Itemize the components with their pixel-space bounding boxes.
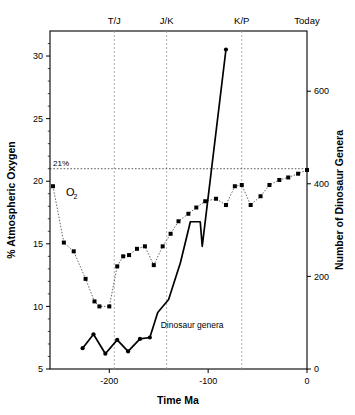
oxygen-series [51,168,309,308]
oxygen-data-point [72,249,76,253]
oxygen-data-point [194,206,198,210]
y-axis-title-left: % Atmospheric Oxygen [5,141,17,258]
oxygen-data-point [161,244,165,248]
bottom-tick-label: -100 [199,376,217,386]
oxygen-data-point [177,219,181,223]
dinosaur-series-label: Dinosaur genera [161,320,224,330]
oxygen-data-point [305,168,309,172]
right-tick-label: 600 [314,86,329,96]
right-tick-label: 200 [314,272,329,282]
era-labels: T/JJ/KK/PToday [108,15,320,26]
left-tick-label: 30 [33,51,43,61]
left-tick-label: 20 [33,176,43,186]
y-axis-title-right: Number of Dinosaur Genera [333,130,345,270]
oxygen-data-point [186,212,190,216]
reference-lines: 21% [50,159,307,169]
right-tick-label: 400 [314,179,329,189]
oxygen-data-point [84,277,88,281]
dinosaur-data-point [103,352,107,356]
oxygen-data-point [152,263,156,267]
oxygen-data-point [97,304,101,308]
oxygen-line [53,170,307,306]
oxygen-data-point [143,244,147,248]
oxygen-data-point [62,241,66,245]
left-tick-label: 25 [33,114,43,124]
oxygen-data-point [135,247,139,251]
chart-annotations: O2Dinosaur genera [66,186,224,329]
oxygen-data-point [92,299,96,303]
reference-line-label: 21% [53,159,69,168]
oxygen-data-point [249,203,253,207]
era-label-j-k: J/K [160,15,174,26]
oxygen-data-point [121,254,125,258]
right-axis-ticks: 0200400600 [307,86,329,374]
dinosaur-data-point [224,47,228,51]
era-label-today: Today [294,15,320,26]
oxygen-data-point [107,304,111,308]
dinosaur-data-point [81,346,85,350]
oxygen-data-point [169,232,173,236]
dinosaur-data-point [91,332,95,336]
oxygen-series-label-subscript: 2 [73,193,77,200]
oxygen-data-point [203,199,207,203]
bottom-tick-label: 0 [304,376,309,386]
dinosaur-data-point [115,338,119,342]
left-tick-label: 15 [33,239,43,249]
oxygen-data-point [267,183,271,187]
oxygen-data-point [286,175,290,179]
plot-frame [50,31,307,369]
left-tick-label: 10 [33,302,43,312]
oxygen-data-point [233,184,237,188]
oxygen-data-point [51,184,55,188]
oxygen-data-point [259,194,263,198]
dinosaur-data-point [138,337,142,341]
era-label-k-p: K/P [234,15,249,26]
oxygen-data-point [224,203,228,207]
dinosaur-data-point [148,335,152,339]
oxygen-dinosaur-chart: 21% 51015202530 0200400600 -200-1000 T/J… [0,0,355,415]
oxygen-data-point [127,253,131,257]
oxygen-data-point [296,172,300,176]
oxygen-data-point [115,264,119,268]
plot-border [50,31,307,369]
left-axis-ticks: 51015202530 [33,44,50,375]
oxygen-data-point [277,178,281,182]
dinosaur-data-point [126,349,130,353]
chart-svg: 21% 51015202530 0200400600 -200-1000 T/J… [0,0,355,415]
bottom-axis-ticks: -200-1000 [100,369,309,386]
right-tick-label: 0 [314,364,319,374]
x-axis-title: Time Ma [157,394,199,406]
left-tick-label: 5 [38,364,43,374]
oxygen-data-point [214,197,218,201]
oxygen-data-point [240,183,244,187]
bottom-tick-label: -200 [100,376,118,386]
era-label-t-j: T/J [108,15,121,26]
